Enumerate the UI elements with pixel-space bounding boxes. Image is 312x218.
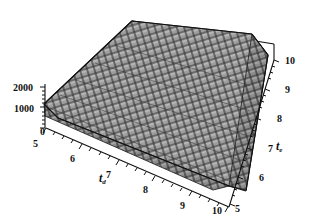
x-tick-label: 9	[180, 201, 185, 211]
x-axis-title: td	[99, 172, 106, 184]
z-tick-label: 2000	[13, 83, 33, 93]
x-tick-label: 8	[143, 185, 148, 195]
x-tick-label: 10	[212, 206, 222, 216]
x-tick-label: 5	[33, 139, 38, 149]
z-tick-label: 1000	[14, 104, 34, 114]
y-axis-title-subscript: e	[279, 146, 282, 154]
surface-mesh	[44, 21, 268, 190]
z-tick-label: 0	[40, 127, 45, 137]
x-tick-label: 6	[70, 154, 75, 164]
y-tick-label: 6	[259, 173, 264, 183]
y-tick-label: 8	[277, 114, 282, 124]
y-tick-label: 10	[285, 56, 295, 66]
surface-plot-figure: 2000 1000 0 5 6 7 8 9 10 10 9 8 7 6 5 td…	[0, 0, 312, 218]
x-tick-label: 7	[106, 170, 111, 180]
y-tick-label: 7	[268, 144, 273, 154]
y-tick-label: 5	[235, 204, 240, 214]
y-axis-title: te	[276, 140, 282, 152]
z-axis-ticks	[40, 87, 45, 128]
x-axis-title-subscript: d	[102, 178, 106, 186]
y-tick-label: 9	[285, 85, 290, 95]
plot-canvas	[0, 0, 312, 218]
